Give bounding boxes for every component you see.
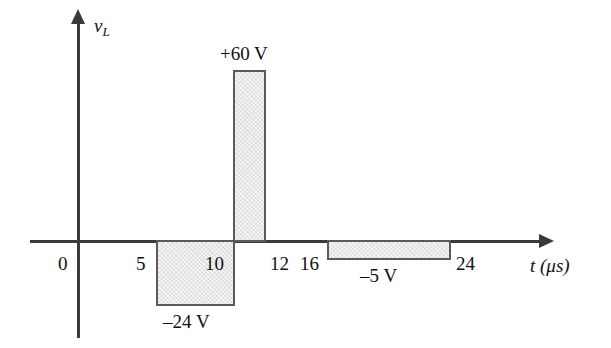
x-tick-label-0: 0 <box>58 254 68 273</box>
x-axis-line <box>30 240 548 243</box>
bar-label-neg5: –5 V <box>360 266 397 285</box>
y-axis-line <box>77 18 80 338</box>
x-tick-label-12: 12 <box>270 254 289 273</box>
x-axis-arrow-icon <box>539 234 554 248</box>
bar-pos60 <box>233 70 266 242</box>
x-tick-label-5: 5 <box>136 254 146 273</box>
bar-label-pos60: +60 V <box>220 44 268 63</box>
bar-neg5 <box>327 240 451 260</box>
y-axis-label-subscript: L <box>102 24 109 39</box>
waveform-figure: vL t (μs) +60 V –24 V –5 V 0 5 10 12 16 … <box>0 0 611 348</box>
x-tick-label-16: 16 <box>300 254 319 273</box>
x-tick-label-10: 10 <box>205 254 224 273</box>
bar-label-neg24: –24 V <box>163 312 210 331</box>
x-axis-label: t (μs) <box>530 256 570 275</box>
y-axis-arrow-icon <box>71 9 85 24</box>
y-axis-label: vL <box>94 16 110 38</box>
x-tick-label-24: 24 <box>456 254 475 273</box>
